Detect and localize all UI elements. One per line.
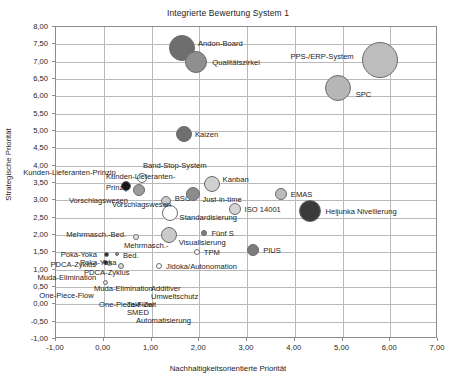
- data-point-label: Qualitätszirkel: [212, 57, 260, 66]
- data-point-label: PPS-/ERP-System: [290, 51, 353, 60]
- data-point-label: Visualisierung: [179, 237, 226, 246]
- data-point-label: Kunden-Lieferanten-Prinzip: [23, 168, 115, 177]
- x-axis-tick-mark: [294, 338, 295, 341]
- data-point-label: One-Piece-Flow: [39, 290, 93, 299]
- x-axis-tick-label: 6,00: [382, 343, 397, 352]
- data-point-label: Kanban: [223, 175, 249, 184]
- annotation-label: Automatisierung: [136, 316, 191, 325]
- data-point-label: Mehrmasch.-Bed.: [66, 230, 126, 239]
- data-point-bubble[interactable]: [104, 252, 109, 257]
- data-point-bubble[interactable]: [204, 176, 220, 192]
- chart-root: Integrierte Bewertung System 1 8,007,507…: [0, 0, 456, 383]
- annotation-label: Prinzip: [106, 183, 129, 192]
- data-point-label: TPM: [204, 248, 220, 257]
- data-point-label: Band-Stop-System: [143, 160, 207, 169]
- x-axis-tick-mark: [151, 338, 152, 341]
- x-axis-tick-mark: [389, 338, 390, 341]
- annotation-label: Mehrmasch.-: [124, 241, 168, 250]
- data-point-bubble[interactable]: [115, 252, 119, 256]
- y-axis-title: Strategische Priorität: [4, 105, 13, 225]
- data-point-bubble[interactable]: [229, 203, 241, 215]
- x-axis-tick-label: 2,00: [191, 343, 206, 352]
- data-point-label: Standardisierung: [180, 213, 237, 222]
- annotation-label: Kunden-Lieferanten-: [106, 172, 175, 181]
- x-axis-tick-mark: [103, 338, 104, 341]
- x-axis-tick-mark: [246, 338, 247, 341]
- data-point-bubble[interactable]: [362, 42, 398, 78]
- x-axis-tick-mark: [55, 338, 56, 341]
- x-axis-tick-label: 1,00: [143, 343, 158, 352]
- data-point-bubble[interactable]: [275, 188, 287, 200]
- x-axis-title: Nachhaltigkeitsorientierte Priorität: [0, 364, 456, 373]
- x-axis-tick-label: 3,00: [239, 343, 254, 352]
- annotation-label: Poka-Yoka: [80, 258, 116, 267]
- data-point-bubble[interactable]: [185, 51, 207, 73]
- x-axis-tick-label: 4,00: [286, 343, 301, 352]
- annotation-label: Umweltschutz: [151, 292, 198, 301]
- annotation-label: Vorschlagswesen: [112, 200, 171, 209]
- x-axis-tick-label: 5,00: [334, 343, 349, 352]
- data-point-label: Fünf S: [211, 228, 233, 237]
- data-point-label: Jidoka/Autonomation: [166, 262, 237, 271]
- annotation-label: Muda-Elimination: [94, 284, 153, 293]
- data-point-label: EMAS: [291, 189, 313, 198]
- x-axis-tick-label: -1,00: [46, 343, 63, 352]
- data-point-label: SPC: [356, 89, 372, 98]
- x-axis-tick-mark: [342, 338, 343, 341]
- data-point-label: ISO 14001: [245, 205, 281, 214]
- annotation-label: PDCA-Zyklus: [84, 268, 130, 277]
- x-axis-tick-mark: [198, 338, 199, 341]
- annotation-label: Bed.: [123, 251, 139, 260]
- data-point-label: Heijunka Nivellierung: [325, 207, 396, 216]
- x-axis-tick-label: 0,00: [95, 343, 110, 352]
- data-point-label: PIUS: [263, 246, 281, 255]
- annotation-label: One-Piece-Flow: [99, 300, 153, 309]
- x-axis-tick-mark: [437, 338, 438, 341]
- data-point-bubble[interactable]: [176, 126, 192, 142]
- data-point-bubble[interactable]: [133, 184, 145, 196]
- data-point-label: Kaizen: [195, 130, 218, 139]
- data-point-bubble[interactable]: [325, 75, 351, 101]
- data-point-label: Andon-Board: [198, 38, 243, 47]
- x-axis-tick-label: 7,00: [430, 343, 445, 352]
